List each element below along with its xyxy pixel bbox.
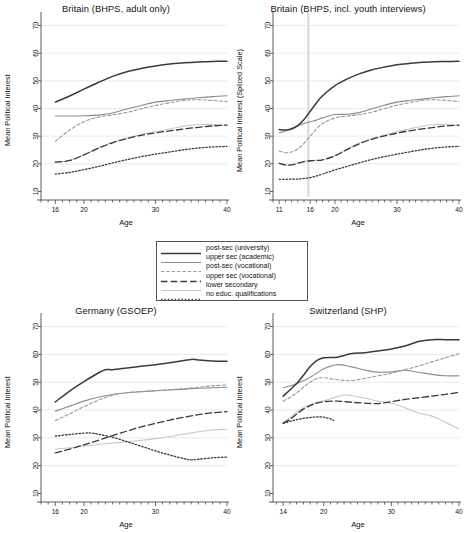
- legend-item: upper sec (vocational): [160, 272, 304, 281]
- series-line: [55, 359, 227, 402]
- y-axis-tick-label: 10: [32, 187, 39, 195]
- y-axis-tick-label: 30: [264, 132, 271, 140]
- x-axis-label: Age: [252, 218, 464, 227]
- legend-line-sample-icon: [160, 281, 202, 290]
- x-axis-tick-label: 16: [307, 206, 315, 213]
- series-line: [55, 61, 227, 102]
- series-line: [279, 125, 459, 165]
- series-line: [279, 124, 459, 165]
- x-axis-tick-label: 30: [152, 206, 160, 213]
- plot-area: 1020304050607016203040: [0, 0, 232, 232]
- legend-item: no educ. qualifications: [160, 290, 304, 299]
- x-axis-tick-label: 16: [52, 508, 60, 515]
- y-axis-tick-label: 50: [32, 378, 39, 386]
- y-axis-tick-label: 30: [264, 434, 271, 442]
- x-axis-label: Age: [252, 520, 464, 529]
- panel-germany: Germany (GSOEP) Mean Political Interest …: [0, 305, 232, 533]
- y-axis-tick-label: 60: [264, 49, 271, 57]
- x-axis-tick-label: 20: [331, 206, 339, 213]
- y-axis-tick-label: 60: [32, 350, 39, 358]
- x-axis-tick-label: 40: [455, 508, 463, 515]
- legend-item: lower secondary: [160, 281, 304, 290]
- series-line: [55, 96, 227, 116]
- x-axis-tick-label: 30: [388, 508, 396, 515]
- panel-britain-adult-only: Britain (BHPS, adult only) Mean Politica…: [0, 0, 232, 232]
- x-axis-tick-label: 40: [223, 508, 231, 515]
- series-line: [55, 125, 227, 162]
- plot-area: 102030405060701116203040: [232, 0, 464, 232]
- panel-switzerland: Switzerland (SHP) Mean Political Interes…: [232, 305, 464, 533]
- y-axis-tick-label: 10: [32, 489, 39, 497]
- y-axis-tick-label: 50: [32, 77, 39, 85]
- plot-area: 1020304050607016203040: [0, 305, 232, 533]
- y-axis-tick-label: 40: [32, 406, 39, 414]
- legend-line-sample-icon: [160, 290, 202, 299]
- y-axis-tick-label: 40: [264, 406, 271, 414]
- series-line: [55, 124, 227, 162]
- x-axis-tick-label: 20: [80, 206, 88, 213]
- legend-item-label: upper sec (vocational): [206, 272, 276, 281]
- series-line: [279, 61, 459, 130]
- legend-item-label: post-sec (university): [206, 244, 269, 253]
- education-level-legend: post-sec (university)upper sec (academic…: [156, 241, 308, 301]
- y-axis-tick-label: 30: [32, 132, 39, 140]
- legend-item: upper sec (academic): [160, 253, 304, 262]
- y-axis-tick-label: 20: [264, 462, 271, 470]
- y-axis-tick-label: 70: [32, 323, 39, 331]
- y-axis-tick-label: 20: [32, 160, 39, 168]
- x-axis-tick-label: 14: [279, 508, 287, 515]
- y-axis-tick-label: 50: [264, 378, 271, 386]
- legend-item-label: lower secondary: [206, 281, 258, 290]
- x-axis-tick-label: 30: [152, 508, 160, 515]
- series-line: [283, 395, 459, 429]
- y-axis-tick-label: 30: [32, 434, 39, 442]
- legend-item-label: post-sec (vocational): [206, 262, 271, 271]
- series-line: [55, 429, 227, 449]
- legend-line-sample-icon: [160, 272, 202, 281]
- y-axis-tick-label: 40: [264, 105, 271, 113]
- series-line: [283, 339, 459, 396]
- series-line: [279, 146, 459, 179]
- series-line: [283, 417, 334, 423]
- y-axis-tick-label: 70: [264, 323, 271, 331]
- x-axis-tick-label: 16: [52, 206, 60, 213]
- x-axis-label: Age: [20, 218, 232, 227]
- y-axis-tick-label: 40: [32, 105, 39, 113]
- series-line: [55, 146, 227, 174]
- legend-item-label: upper sec (academic): [206, 253, 274, 262]
- series-line: [55, 385, 227, 421]
- y-axis-tick-label: 20: [32, 462, 39, 470]
- y-axis-tick-label: 70: [32, 22, 39, 30]
- y-axis-tick-label: 70: [264, 22, 271, 30]
- x-axis-tick-label: 11: [276, 206, 283, 213]
- y-axis-tick-label: 60: [32, 49, 39, 57]
- legend-item: post-sec (university): [160, 244, 304, 253]
- y-axis-tick-label: 50: [264, 77, 271, 85]
- legend-line-sample-icon: [160, 244, 202, 253]
- x-axis-tick-label: 40: [455, 206, 463, 213]
- legend-item-label: no educ. qualifications: [206, 290, 276, 299]
- y-axis-tick-label: 60: [264, 350, 271, 358]
- y-axis-tick-label: 10: [264, 187, 271, 195]
- plot-area: 1020304050607014203040: [232, 305, 464, 533]
- x-axis-tick-label: 30: [393, 206, 401, 213]
- legend-line-sample-icon: [160, 262, 202, 271]
- y-axis-tick-label: 10: [264, 489, 271, 497]
- x-axis-tick-label: 40: [223, 206, 231, 213]
- x-axis-tick-label: 20: [80, 508, 88, 515]
- series-line: [279, 100, 459, 153]
- multi-panel-chart-figure: Britain (BHPS, adult only) Mean Politica…: [0, 0, 464, 533]
- x-axis-tick-label: 20: [320, 508, 328, 515]
- x-axis-label: Age: [20, 520, 232, 529]
- series-line: [283, 392, 459, 423]
- panel-britain-incl-youth: Britain (BHPS, incl. youth interviews) M…: [232, 0, 464, 232]
- legend-line-sample-icon: [160, 253, 202, 262]
- legend-item: post-sec (vocational): [160, 262, 304, 271]
- y-axis-tick-label: 20: [264, 160, 271, 168]
